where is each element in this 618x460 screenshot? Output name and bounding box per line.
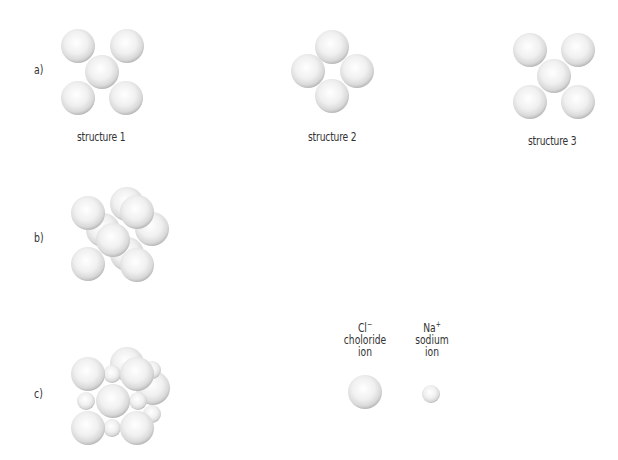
front-layer-sphere — [120, 248, 154, 282]
chloride-ion-sphere — [537, 59, 571, 93]
chloride-ion-sphere — [120, 411, 154, 445]
front-layer-sphere — [71, 196, 105, 230]
structure-1-label: structure 1 — [77, 130, 126, 144]
chloride-ion-word: ion — [339, 346, 392, 358]
sodium-ion-word: ion — [407, 346, 458, 358]
chloride-ion-sphere — [61, 29, 95, 63]
part-label-a: a) — [34, 62, 43, 77]
front-layer-sphere — [71, 247, 105, 281]
legend-sodium: Na+ sodium ion — [407, 319, 458, 358]
chloride-ion-sphere — [96, 384, 130, 418]
sodium-ion-sphere — [77, 392, 95, 410]
front-layer-sphere — [96, 223, 130, 257]
legend-sodium-sphere — [422, 385, 440, 403]
chloride-ion-sphere — [110, 29, 144, 63]
sodium-symbol: Na+ — [407, 319, 458, 334]
chloride-ion-sphere — [315, 30, 349, 64]
sodium-ion-sphere — [103, 419, 121, 437]
chloride-ion-sphere — [315, 79, 349, 113]
legend-chloride: Cl− choloride ion — [339, 319, 392, 358]
front-layer-sphere — [120, 195, 154, 229]
chloride-ion-sphere — [61, 81, 95, 115]
sodium-ion-sphere — [129, 392, 147, 410]
structure-3-spheres — [513, 33, 595, 119]
diagram-canvas — [0, 0, 618, 460]
nacl-lattice-c — [71, 347, 170, 445]
chloride-symbol: Cl− — [339, 319, 392, 334]
chloride-ion-sphere — [340, 54, 374, 88]
structure-2-label: structure 2 — [308, 130, 357, 144]
legend-chloride-sphere — [348, 375, 382, 409]
layered-structure-b — [71, 187, 169, 282]
chloride-ion-sphere — [513, 33, 547, 67]
structure-1-spheres — [61, 29, 144, 115]
chloride-ion-sphere — [71, 411, 105, 445]
part-label-b: b) — [34, 230, 44, 245]
chloride-ion-sphere — [561, 33, 595, 67]
chloride-ion-sphere — [71, 357, 105, 391]
chloride-ion-sphere — [561, 85, 595, 119]
part-label-c: c) — [34, 386, 43, 401]
chloride-ion-sphere — [513, 85, 547, 119]
chloride-ion-sphere — [291, 54, 325, 88]
sodium-ion-sphere — [103, 365, 121, 383]
chloride-ion-sphere — [85, 55, 119, 89]
chloride-ion-sphere — [120, 357, 154, 391]
structure-2-spheres — [291, 30, 374, 113]
structure-3-label: structure 3 — [528, 134, 577, 148]
chloride-ion-sphere — [109, 81, 143, 115]
